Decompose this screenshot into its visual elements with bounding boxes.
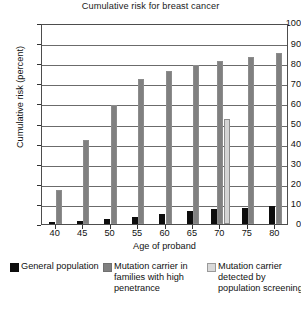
x-tick-label: 70 <box>205 228 233 238</box>
bar <box>248 57 254 224</box>
bar <box>77 221 83 224</box>
legend-swatch-icon <box>207 263 216 272</box>
bar <box>269 206 275 224</box>
legend-label: Mutation carrier in families with high p… <box>114 261 206 295</box>
bar <box>111 105 117 224</box>
bar <box>187 211 193 224</box>
bar <box>242 208 248 224</box>
breast-cancer-risk-chart: Cumulative risk for breast cancer 100908… <box>0 0 301 320</box>
x-tick-mark <box>82 225 83 229</box>
x-tick-mark <box>55 225 56 229</box>
bar <box>83 140 89 224</box>
plot-area <box>41 24 288 225</box>
bar <box>211 209 217 224</box>
bar <box>217 61 223 224</box>
x-tick-label: 75 <box>233 228 261 238</box>
bar <box>104 219 110 224</box>
x-tick-label: 50 <box>96 228 124 238</box>
bar <box>49 222 55 224</box>
x-tick-label: 80 <box>260 228 288 238</box>
x-tick-label: 65 <box>178 228 206 238</box>
gridline <box>42 45 287 46</box>
legend-swatch-icon <box>10 263 19 272</box>
y-tick-mark <box>37 225 41 226</box>
bar <box>193 65 199 224</box>
bar <box>159 214 165 224</box>
bar <box>132 217 138 224</box>
x-tick-mark <box>219 225 220 229</box>
x-tick-mark <box>192 225 193 229</box>
x-tick-label: 60 <box>151 228 179 238</box>
bar <box>276 53 282 224</box>
x-tick-label: 55 <box>123 228 151 238</box>
x-tick-label: 40 <box>41 228 69 238</box>
x-tick-mark <box>110 225 111 229</box>
chart-legend: General populationMutation carrier in fa… <box>0 262 301 320</box>
legend-swatch-icon <box>103 263 112 272</box>
x-tick-mark <box>165 225 166 229</box>
x-tick-mark <box>137 225 138 229</box>
legend-label: General population <box>21 261 101 272</box>
legend-label: Mutation carrier detected by population … <box>218 261 301 295</box>
y-axis-title: Cumulative risk (percent) <box>15 17 25 177</box>
x-tick-mark <box>247 225 248 229</box>
bar <box>166 71 172 224</box>
bar <box>224 119 230 224</box>
bar <box>56 190 62 224</box>
x-tick-label: 45 <box>68 228 96 238</box>
chart-title: Cumulative risk for breast cancer <box>0 1 301 11</box>
bar <box>138 79 144 224</box>
x-axis-title: Age of proband <box>41 241 288 251</box>
x-tick-mark <box>274 225 275 229</box>
